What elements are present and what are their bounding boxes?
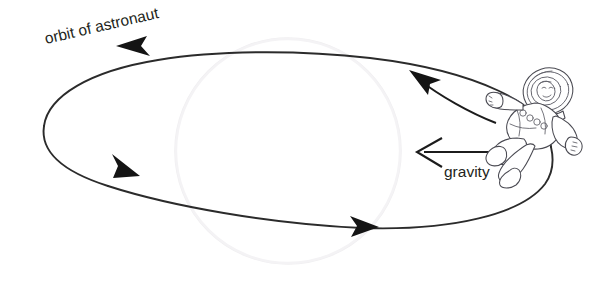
astronaut-figure	[486, 61, 582, 188]
velocity-arrow	[409, 70, 496, 123]
orbit-diagram-svg: orbit of astronaut gravity	[0, 0, 603, 294]
orbit-diagram-canvas: orbit of astronaut gravity	[0, 0, 603, 294]
orbit-arc-upper	[44, 52, 551, 147]
gravity-label: gravity	[444, 163, 490, 180]
astronaut-left-glove	[486, 92, 503, 108]
arrowhead-left	[112, 154, 140, 178]
orbit-arc-left	[44, 126, 108, 186]
arrowhead-top	[116, 36, 150, 56]
orbit-ellipse	[44, 52, 553, 228]
